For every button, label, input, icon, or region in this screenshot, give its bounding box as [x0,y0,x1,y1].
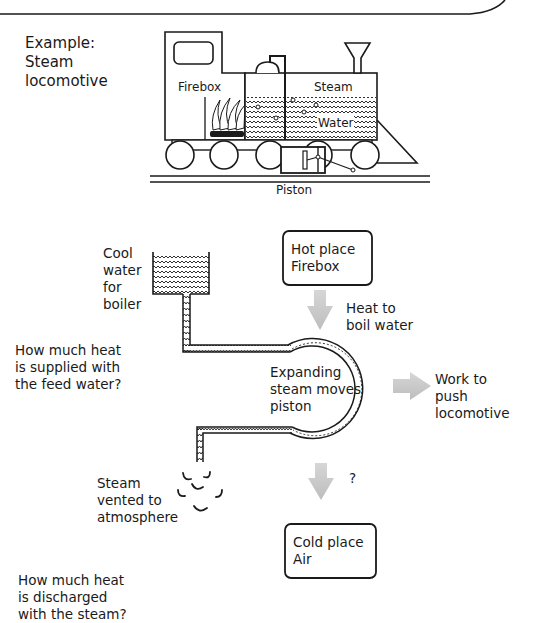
boiler-water [246,97,376,139]
locomotive-caption: Example: Steam locomotive [25,34,108,91]
label-question-mark: ? [349,470,356,487]
steam-dome [256,62,279,73]
funnel [345,43,370,73]
steam-puffs-icon [178,472,222,511]
exhaust-pipe [197,427,292,462]
label-steam-vented: Steam vented to atmosphere [97,475,178,526]
label-hot-place: Hot place Firebox [291,241,355,275]
label-cool-water: Cool water for boiler [103,245,141,313]
feed-pipe [183,294,291,352]
label-water: Water [317,116,354,130]
locomotive-illustration [150,32,430,182]
cab-window [174,42,213,64]
work-out-arrow-icon [393,372,431,400]
label-firebox: Firebox [178,80,221,94]
feed-water-tank [153,252,209,294]
label-cold-place: Cold place Air [293,534,364,568]
label-expanding-steam: Expanding steam moves piston [270,364,361,415]
heat-in-arrow-icon [307,290,333,330]
heat-out-arrow-icon [308,463,334,500]
cowcatcher [377,120,417,163]
label-piston: Piston [276,183,312,197]
question-feed-water: How much heat is supplied with the feed … [15,342,121,393]
label-steam: Steam [314,80,353,94]
question-discharged: How much heat is discharged with the ste… [18,572,127,623]
frame-curve [0,0,505,14]
label-heat-in: Heat to boil water [346,300,413,334]
label-work-out: Work to push locomotive [435,371,509,422]
